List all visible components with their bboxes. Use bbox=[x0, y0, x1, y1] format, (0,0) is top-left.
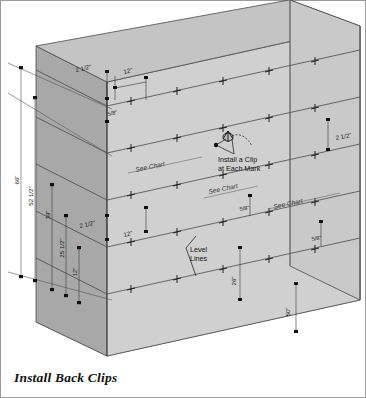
isometric-cabinet-diagram: 66" 52 1/2" 39" 25 1/2" 12" bbox=[0, 0, 366, 398]
left-end-face bbox=[36, 46, 107, 356]
cabinet-body bbox=[36, 0, 360, 356]
clip-note-line-1: Install a Clip bbox=[218, 155, 257, 164]
dim-label-26: 26" bbox=[230, 276, 237, 285]
dim-label-39: 39" bbox=[44, 210, 51, 219]
dim-label-52: 52 1/2" bbox=[27, 186, 34, 205]
diagram-stage: 66" 52 1/2" 39" 25 1/2" 12" bbox=[0, 0, 366, 398]
dim-label-12-left: 12" bbox=[72, 268, 78, 276]
figure-caption: Install Back Clips bbox=[14, 370, 117, 386]
dim-label-50: 50" bbox=[284, 307, 291, 316]
clip-note-line-2: at Each Mark bbox=[218, 164, 261, 173]
left-chain-ticks bbox=[19, 66, 37, 282]
level-lines-label-2: Lines bbox=[190, 254, 208, 263]
dim-label-66: 66" bbox=[13, 175, 20, 184]
level-lines-label-1: Level bbox=[190, 245, 208, 254]
dim-label-25: 25 1/2" bbox=[58, 238, 65, 257]
clip-callout-anchor-dot bbox=[214, 143, 218, 147]
right-end-face bbox=[290, 0, 360, 300]
